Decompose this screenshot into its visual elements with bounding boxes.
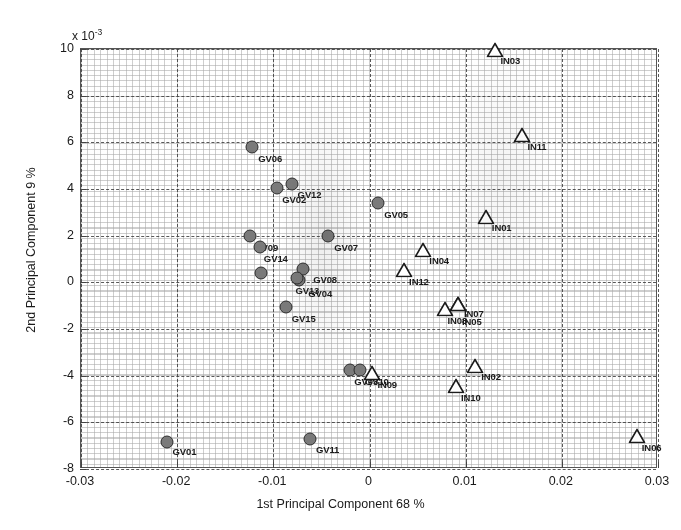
gridline-horizontal [81,142,656,143]
y-axis-tick [80,236,86,237]
gridline-horizontal [81,329,656,330]
x-axis-tick [466,462,467,468]
y-axis-tick [80,469,86,470]
data-point-label: GV06 [258,154,282,164]
data-point-circle [160,436,173,449]
data-point-label: IN09 [377,380,397,390]
x-tick-label: 0.01 [452,474,476,488]
gridline-vertical [370,49,371,467]
data-point-label: GV14 [264,254,288,264]
circle-marker-icon [160,436,173,449]
y-tick-label: 6 [36,134,74,148]
data-point-label: IN03 [501,56,521,66]
minor-gridlines [81,49,656,467]
data-point-label: IN02 [481,372,501,382]
data-point-label: GV08 [313,275,337,285]
circle-marker-icon [246,141,259,154]
data-point-label: GV11 [316,445,339,455]
x-tick-label: -0.01 [258,474,287,488]
circle-marker-icon [291,272,304,285]
x-tick-label: 0 [365,474,372,488]
data-point-label: IN10 [461,393,481,403]
gridline-vertical [81,49,82,467]
y-axis-exponent-power: -3 [95,27,103,37]
y-axis-tick [80,376,86,377]
circle-marker-icon [372,196,385,209]
x-axis-tick [562,462,563,468]
data-point-circle [254,267,267,280]
data-point-label: IN04 [429,256,449,266]
data-point-circle [271,181,284,194]
y-axis-tick [80,49,86,50]
y-axis-label: 2nd Principal Component 9 % [24,55,38,445]
gridline-vertical [466,49,467,467]
data-point-circle [291,272,304,285]
data-point-circle [285,177,298,190]
x-axis-tick [81,462,82,468]
x-tick-label: -0.02 [162,474,191,488]
x-axis-tick [658,462,659,468]
gridline-horizontal [81,282,656,283]
y-axis-tick [80,329,86,330]
x-tick-label: 0.02 [549,474,573,488]
y-tick-label: 2 [36,228,74,242]
circle-marker-icon [253,240,266,253]
x-tick-label: 0.03 [645,474,669,488]
y-axis-tick [80,96,86,97]
data-point-label: GV12 [298,190,322,200]
y-axis-exponent: x 10-3 [72,27,102,43]
gridline-vertical [658,49,659,467]
data-point-label: GV13 [295,286,319,296]
x-axis-tick [370,462,371,468]
gridline-horizontal [81,422,656,423]
x-axis-label: 1st Principal Component 68 % [0,497,681,511]
data-point-label: IN01 [492,223,512,233]
circle-marker-icon [303,433,316,446]
data-point-label: GV15 [292,314,316,324]
y-axis-tick [80,142,86,143]
plot-area: GV01GV02GV03GV04GV05GV06GV07GV08GV09GV10… [80,48,657,468]
data-point-circle [253,240,266,253]
data-point-label: IN12 [409,277,429,287]
circle-marker-icon [322,229,335,242]
data-point-label: IN06 [642,443,662,453]
y-tick-label: 8 [36,88,74,102]
gridline-horizontal [81,236,656,237]
data-point-label: GV05 [384,210,408,220]
data-point-circle [303,433,316,446]
circle-marker-icon [271,181,284,194]
gridline-horizontal [81,49,656,50]
y-tick-label: -6 [36,414,74,428]
y-tick-label: -8 [36,461,74,475]
x-axis-tick [273,462,274,468]
data-point-label: IN11 [527,142,546,152]
data-point-circle [322,229,335,242]
pca-scatter-figure: x 10-3 GV01GV02GV03GV04GV05GV06GV07GV08G… [0,0,681,530]
y-axis-tick [80,282,86,283]
major-gridlines [81,49,656,467]
scan-artifact-overlay [81,49,656,467]
y-axis-tick [80,422,86,423]
x-tick-label: -0.03 [66,474,95,488]
y-axis-exponent-base: x 10 [72,29,95,43]
y-tick-label: 0 [36,274,74,288]
data-point-circle [279,300,292,313]
gridline-vertical [562,49,563,467]
data-point-label: GV07 [334,243,358,253]
y-tick-label: 10 [36,41,74,55]
x-axis-tick [177,462,178,468]
gridline-horizontal [81,189,656,190]
gridline-vertical [177,49,178,467]
data-point-label: IN08 [447,316,467,326]
data-point-label: GV01 [173,447,197,457]
data-point-circle [372,196,385,209]
gridline-horizontal [81,469,656,470]
y-tick-label: -4 [36,368,74,382]
circle-marker-icon [285,177,298,190]
y-tick-label: 4 [36,181,74,195]
data-point-circle [246,141,259,154]
y-tick-label: -2 [36,321,74,335]
gridline-horizontal [81,96,656,97]
circle-marker-icon [254,267,267,280]
y-axis-tick [80,189,86,190]
